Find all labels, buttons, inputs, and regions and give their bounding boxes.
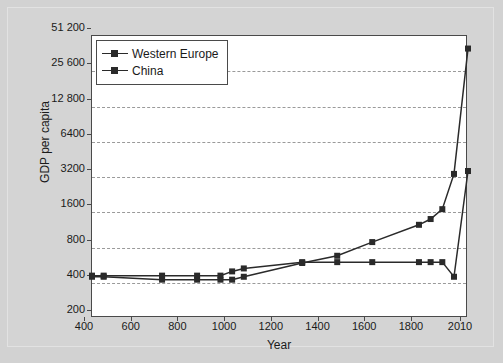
x-tick-mark <box>460 317 461 321</box>
x-tick-label: 600 <box>122 321 140 332</box>
data-point-marker <box>299 259 305 265</box>
data-point-marker <box>465 46 471 52</box>
data-point-marker <box>369 259 375 265</box>
x-tick-label: 800 <box>168 321 186 332</box>
legend-line-marker-icon <box>102 48 128 59</box>
data-point-marker <box>241 274 247 280</box>
y-tick-label: 800 <box>15 234 85 245</box>
x-tick-label: 1000 <box>212 321 236 332</box>
data-point-marker <box>439 259 445 265</box>
y-tick-label: 200 <box>15 304 85 315</box>
x-tick-mark <box>131 317 132 321</box>
y-tick-label: 400 <box>15 269 85 280</box>
series-china <box>89 168 471 280</box>
x-tick-mark <box>177 317 178 321</box>
data-point-marker <box>229 277 235 283</box>
data-point-marker <box>451 274 457 280</box>
x-tick-mark <box>318 317 319 321</box>
legend-line-marker-icon <box>102 65 128 76</box>
data-point-marker <box>416 259 422 265</box>
legend-label: Western Europe <box>132 48 219 60</box>
series-line <box>92 171 468 277</box>
legend-item-china: China <box>102 62 219 79</box>
data-point-marker <box>428 216 434 222</box>
data-point-marker <box>194 273 200 279</box>
data-point-marker <box>334 259 340 265</box>
x-tick-label: 1600 <box>352 321 376 332</box>
data-point-marker <box>101 273 107 279</box>
x-tick-label: 1400 <box>305 321 329 332</box>
x-tick-mark <box>411 317 412 321</box>
legend-label: China <box>132 65 163 77</box>
data-point-marker <box>416 222 422 228</box>
data-point-marker <box>465 168 471 174</box>
x-tick-mark <box>84 317 85 321</box>
figure-frame: 20040080016003200640012 80025 60051 200 … <box>7 7 494 347</box>
x-tick-mark <box>224 317 225 321</box>
y-tick-label: 51 200 <box>15 22 85 33</box>
x-tick-mark <box>364 317 365 321</box>
data-point-marker <box>89 273 95 279</box>
data-point-marker <box>451 171 457 177</box>
x-axis-label: Year <box>91 338 467 352</box>
data-point-marker <box>439 206 445 212</box>
x-tick-label: 2010 <box>448 321 472 332</box>
data-point-marker <box>229 268 235 274</box>
chart-screenshot: 20040080016003200640012 80025 60051 200 … <box>0 0 503 363</box>
y-tick-label: 25 600 <box>15 57 85 68</box>
x-tick-label: 400 <box>75 321 93 332</box>
data-point-marker <box>241 265 247 271</box>
legend: Western Europe China <box>96 40 228 85</box>
y-axis-label: GDP per capita <box>38 82 52 202</box>
data-point-marker <box>334 253 340 259</box>
data-point-marker <box>428 259 434 265</box>
x-tick-mark <box>271 317 272 321</box>
y-tick-mark <box>87 28 91 29</box>
x-tick-label: 1200 <box>259 321 283 332</box>
legend-item-western-europe: Western Europe <box>102 45 219 62</box>
data-point-marker <box>217 273 223 279</box>
data-point-marker <box>159 273 165 279</box>
x-tick-label: 1800 <box>399 321 423 332</box>
data-point-marker <box>369 239 375 245</box>
